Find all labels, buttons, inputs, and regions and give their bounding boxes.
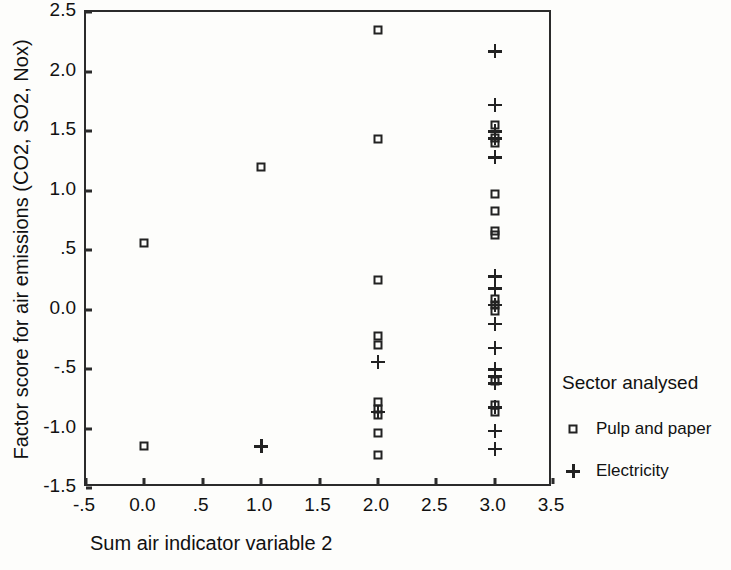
y-axis-tick bbox=[86, 427, 92, 430]
y-axis-tick bbox=[86, 249, 92, 252]
data-point bbox=[140, 442, 149, 451]
y-axis-tick bbox=[86, 189, 92, 192]
x-axis-tick-label: 3.0 bbox=[479, 494, 505, 516]
legend-title: Sector analysed bbox=[562, 372, 730, 394]
data-point bbox=[257, 162, 266, 171]
legend-item-label: Pulp and paper bbox=[596, 419, 711, 439]
x-axis-tick bbox=[318, 478, 321, 484]
x-axis-tick-label: 0.0 bbox=[129, 494, 155, 516]
x-axis-tick bbox=[435, 478, 438, 484]
x-axis-tick-label: 3.5 bbox=[538, 494, 564, 516]
x-axis-tick-label: 1.0 bbox=[246, 494, 272, 516]
y-axis-tick bbox=[86, 308, 92, 311]
x-axis-tick bbox=[493, 478, 496, 484]
x-axis-tick bbox=[85, 478, 88, 484]
chart-page: 2.52.01.51.0.50.0-.5-1.0-1.5-.50.0.51.01… bbox=[0, 0, 731, 570]
x-axis-tick bbox=[376, 478, 379, 484]
y-axis-tick bbox=[86, 130, 92, 133]
data-point bbox=[488, 281, 502, 295]
data-point bbox=[490, 190, 499, 199]
x-axis-tick-label: .5 bbox=[193, 494, 209, 516]
legend: Sector analysed Pulp and paper Electrici… bbox=[562, 372, 730, 500]
data-point bbox=[373, 135, 382, 144]
legend-item-pulp-and-paper: Pulp and paper bbox=[562, 416, 730, 442]
data-point bbox=[373, 341, 382, 350]
x-axis-tick-label: -.5 bbox=[73, 494, 95, 516]
data-point bbox=[490, 230, 499, 239]
data-point bbox=[488, 44, 502, 58]
data-point bbox=[373, 275, 382, 284]
plot-frame bbox=[84, 10, 551, 486]
y-axis-tick-label: -1.5 bbox=[16, 475, 76, 497]
data-point bbox=[488, 317, 502, 331]
data-point bbox=[371, 405, 385, 419]
data-point bbox=[373, 429, 382, 438]
x-axis-tick bbox=[552, 478, 555, 484]
y-axis-tick-label: 2.5 bbox=[16, 0, 76, 21]
plot-area bbox=[86, 12, 549, 484]
x-axis-tick bbox=[143, 478, 146, 484]
x-axis-tick bbox=[201, 478, 204, 484]
data-point bbox=[488, 376, 502, 390]
y-axis-tick bbox=[86, 487, 92, 490]
square-marker-icon bbox=[562, 421, 584, 437]
x-axis-tick bbox=[260, 478, 263, 484]
x-axis-tick-label: 1.5 bbox=[304, 494, 330, 516]
data-point bbox=[371, 355, 385, 369]
data-point bbox=[140, 238, 149, 247]
y-axis-tick bbox=[86, 368, 92, 371]
y-axis-tick bbox=[86, 11, 92, 14]
y-axis-tick bbox=[86, 70, 92, 73]
data-point bbox=[488, 341, 502, 355]
x-axis-tick-label: 2.5 bbox=[421, 494, 447, 516]
data-point bbox=[488, 442, 502, 456]
data-point bbox=[373, 450, 382, 459]
data-point bbox=[373, 331, 382, 340]
y-axis-title: Factor score for air emissions (CO2, SO2… bbox=[10, 35, 33, 465]
data-point bbox=[488, 400, 502, 414]
legend-item-electricity: Electricity bbox=[562, 458, 730, 484]
data-point bbox=[488, 98, 502, 112]
x-axis-title: Sum air indicator variable 2 bbox=[90, 532, 332, 555]
x-axis-tick-label: 2.0 bbox=[363, 494, 389, 516]
legend-item-label: Electricity bbox=[596, 461, 669, 481]
data-point bbox=[488, 131, 502, 145]
data-point bbox=[490, 206, 499, 215]
data-point bbox=[488, 150, 502, 164]
plus-marker-icon bbox=[562, 463, 584, 479]
data-point bbox=[488, 298, 502, 312]
data-point bbox=[488, 424, 502, 438]
data-point bbox=[373, 25, 382, 34]
data-point bbox=[254, 439, 268, 453]
